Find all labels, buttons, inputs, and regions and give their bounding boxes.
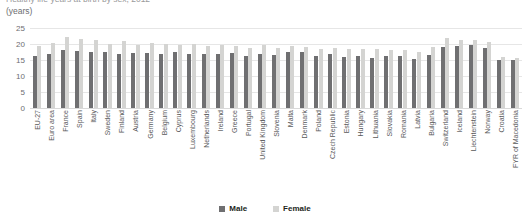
bar-male [455, 46, 459, 108]
x-axis-tick: Italy [86, 110, 100, 190]
bar-female [108, 44, 112, 108]
x-axis-tick-label: Malta [287, 110, 294, 127]
bar-female [248, 48, 252, 108]
x-axis-tick-label: Austria [132, 110, 139, 132]
bar-female [445, 38, 449, 108]
bar-male [342, 57, 346, 108]
healthy-life-years-chart: Healthy life years at birth by sex, 2012… [0, 0, 530, 219]
bar-group [452, 28, 466, 108]
bar-male [103, 52, 107, 108]
x-axis-tick: Czech Republic [325, 110, 339, 190]
bar-group [438, 28, 452, 108]
bar-male [187, 54, 191, 108]
bar-group [339, 28, 353, 108]
bar-male [47, 54, 51, 108]
x-axis-tick-label: Latvia [413, 110, 420, 129]
x-axis-tick-label: France [62, 110, 69, 132]
bar-male [370, 58, 374, 108]
bar-group [171, 28, 185, 108]
y-axis-tick-label: 15 [16, 56, 25, 65]
bar-female [487, 42, 491, 108]
bar-group [213, 28, 227, 108]
x-axis-tick: Switzerland [438, 110, 452, 190]
x-axis-tick: Denmark [297, 110, 311, 190]
bar-male [159, 54, 163, 108]
bar-male [89, 52, 93, 108]
x-axis-tick-label: Cyprus [174, 110, 181, 132]
x-axis-tick: EU-27 [30, 110, 44, 190]
bar-female [276, 48, 280, 108]
bar-male [483, 48, 487, 108]
bar-male [497, 60, 501, 108]
bar-male [300, 52, 304, 108]
x-axis-tick: Bulgaria [424, 110, 438, 190]
y-axis-tick-label: 5 [21, 88, 25, 97]
legend-swatch-icon [273, 206, 279, 212]
x-axis-tick: Austria [128, 110, 142, 190]
bar-male [384, 56, 388, 108]
bar-group [143, 28, 157, 108]
y-axis: 0510152025 [0, 22, 28, 114]
x-axis-tick-label: Hungary [357, 110, 364, 136]
x-axis-tick: Belgium [157, 110, 171, 190]
x-axis-tick: FYR of Macedonia [508, 110, 522, 190]
x-axis-tick: Liechtenstein [466, 110, 480, 190]
bar-group [382, 28, 396, 108]
gridline [30, 108, 522, 109]
bar-male [328, 54, 332, 108]
bar-female [290, 46, 294, 108]
x-axis-tick: Slovenia [269, 110, 283, 190]
bar-group [114, 28, 128, 108]
x-axis-tick-label: Portugal [244, 110, 251, 136]
x-axis-tick: Cyprus [171, 110, 185, 190]
bar-group [58, 28, 72, 108]
x-axis-tick-label: Bulgaria [427, 110, 434, 136]
bar-male [511, 60, 515, 108]
x-axis-tick-label: Liechtenstein [469, 110, 476, 151]
x-axis-tick-label: Romania [399, 110, 406, 138]
bar-group [241, 28, 255, 108]
x-axis-tick-label: Spain [76, 110, 83, 128]
bar-group [424, 28, 438, 108]
x-axis-tick: Latvia [410, 110, 424, 190]
x-axis-tick-label: Slovenia [273, 110, 280, 137]
bar-group [255, 28, 269, 108]
bar-group [86, 28, 100, 108]
x-axis-tick: Poland [311, 110, 325, 190]
legend-item-female[interactable]: Female [273, 204, 311, 213]
bar-male [131, 53, 135, 108]
bar-female [164, 44, 168, 108]
bar-group [157, 28, 171, 108]
x-axis-tick: Iceland [452, 110, 466, 190]
legend-label: Male [229, 204, 247, 213]
bar-group [466, 28, 480, 108]
x-axis-tick-label: Slovakia [385, 110, 392, 136]
x-axis-tick: Portugal [241, 110, 255, 190]
bar-female [150, 43, 154, 108]
bar-female [234, 46, 238, 108]
legend-item-male[interactable]: Male [219, 204, 247, 213]
bar-group [199, 28, 213, 108]
bar-female [417, 52, 421, 108]
bar-group [368, 28, 382, 108]
y-axis-tick-label: 25 [16, 24, 25, 33]
bar-group [508, 28, 522, 108]
bar-female [361, 49, 365, 108]
bar-male [75, 51, 79, 108]
x-axis-tick: Germany [143, 110, 157, 190]
bar-group [227, 28, 241, 108]
bar-female [178, 45, 182, 108]
x-axis-tick-label: Sweden [104, 110, 111, 135]
bar-male [427, 55, 431, 108]
x-axis-tick-label: Czech Republic [329, 110, 336, 159]
chart-title: Healthy life years at birth by sex, 2012 [6, 0, 426, 8]
bar-male [272, 55, 276, 108]
bar-male [412, 59, 416, 108]
x-axis-tick-label: Iceland [455, 110, 462, 133]
bar-female [79, 39, 83, 108]
bar-female [65, 37, 69, 108]
bar-male [173, 52, 177, 108]
bar-group [494, 28, 508, 108]
bar-group [396, 28, 410, 108]
bar-female [403, 50, 407, 108]
